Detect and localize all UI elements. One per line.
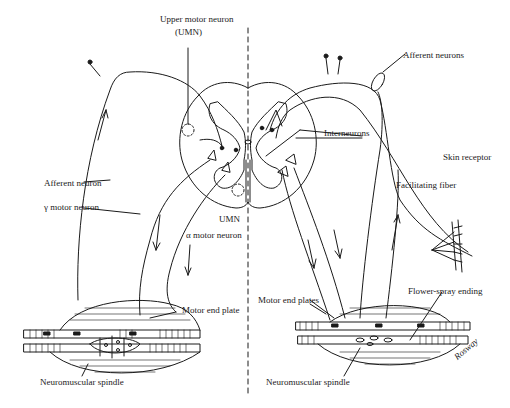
alpha-motor-neuron-path	[167, 175, 225, 312]
label-neuromuscular-spindle-left: Neuromuscular spindle	[40, 377, 124, 387]
label-gamma-motor-neuron: γ motor neuron	[44, 202, 99, 212]
label-facilitating-fiber: Facilitating fiber	[396, 180, 456, 190]
label-afferent-neurons: Afferent neurons	[403, 50, 464, 60]
label-alpha-motor-neuron: α motor neuron	[186, 230, 242, 240]
label-afferent-neuron: Afferent neuron	[44, 178, 102, 188]
label-motor-end-plates: Motor end plates	[258, 295, 319, 305]
label-umn: UMN	[219, 214, 240, 224]
facilitating-fiber-path	[360, 92, 382, 318]
right-afferent-neurons-path	[270, 83, 472, 256]
label-flower-spray-ending: Flower-spray ending	[408, 286, 483, 296]
label-umn-top: (UMN)	[175, 27, 202, 37]
label-skin-receptor: Skin receptor	[443, 152, 491, 162]
skin-receptor-drawing	[432, 220, 462, 272]
left-muscle-drawing	[24, 300, 200, 373]
label-neuromuscular-spindle-right: Neuromuscular spindle	[266, 377, 350, 387]
umn-cell-upper	[182, 124, 194, 136]
label-upper-motor-neuron: Upper motor neuron	[160, 14, 233, 24]
umn-cell-lower	[232, 184, 244, 196]
right-muscle-drawing	[296, 306, 470, 366]
label-motor-end-plate: Motor end plate	[182, 305, 240, 315]
label-interneurons: Interneurons	[324, 128, 369, 138]
